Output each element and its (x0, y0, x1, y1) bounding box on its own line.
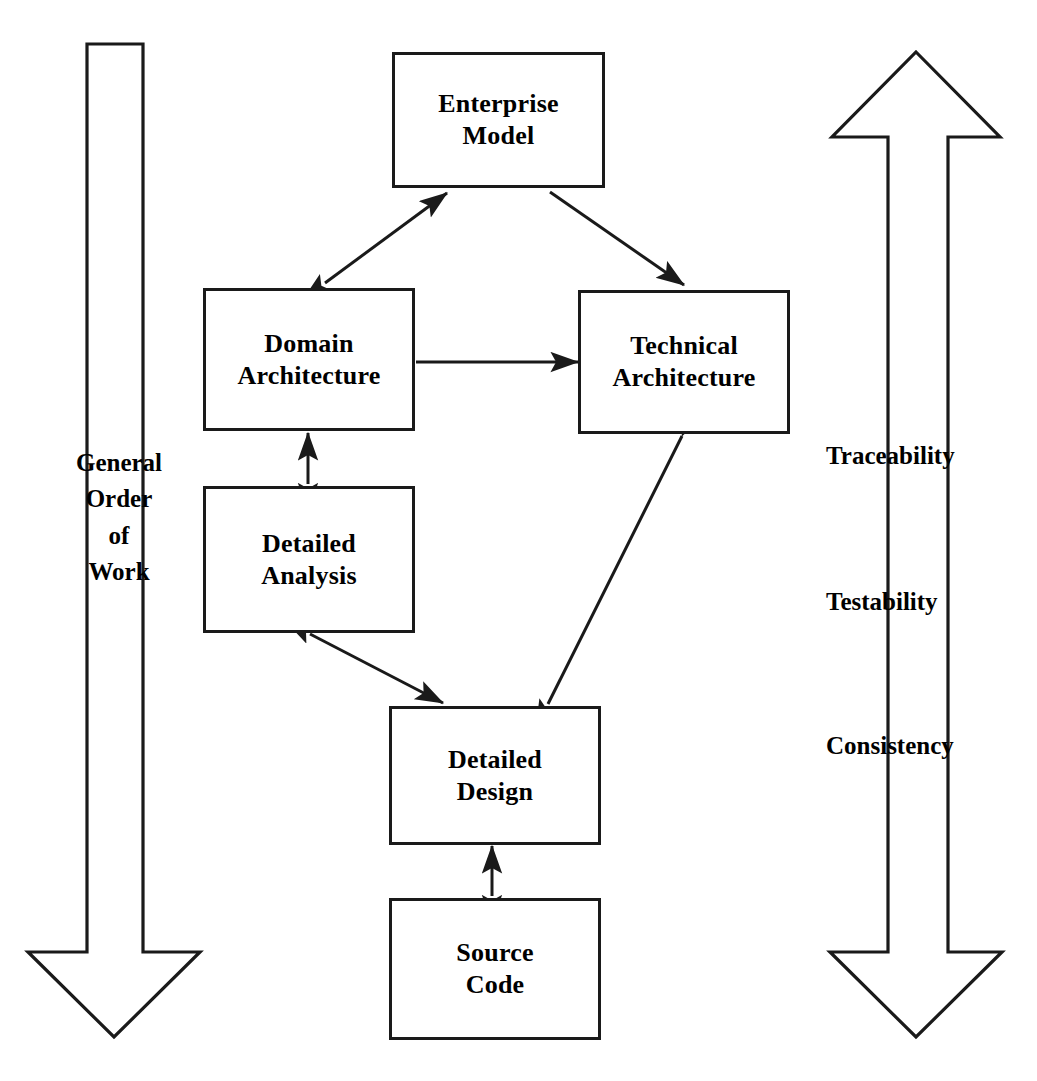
connector-enterprise-to-technical (550, 192, 684, 285)
general-order-of-work-arrow (28, 44, 200, 1037)
node-source-code[interactable]: Source Code (389, 898, 601, 1040)
node-detailed-design-label: Detailed Design (448, 744, 542, 807)
diagram-canvas: Enterprise Model Domain Architecture Tec… (0, 0, 1037, 1081)
connector-technical-to-detailed-design (548, 436, 682, 704)
node-enterprise-model[interactable]: Enterprise Model (392, 52, 605, 188)
node-detailed-analysis-label: Detailed Analysis (261, 528, 357, 591)
node-technical-architecture-label: Technical Architecture (613, 330, 756, 393)
connector-detailed-analysis-to-detailed-design (310, 634, 443, 703)
node-enterprise-model-label: Enterprise Model (438, 88, 558, 151)
node-detailed-analysis[interactable]: Detailed Analysis (203, 486, 415, 633)
node-technical-architecture[interactable]: Technical Architecture (578, 290, 790, 434)
connector-enterprise-to-domain (325, 193, 447, 283)
node-detailed-design[interactable]: Detailed Design (389, 706, 601, 845)
node-domain-architecture-label: Domain Architecture (238, 328, 381, 391)
quality-attributes-arrow (830, 52, 1002, 1037)
node-domain-architecture[interactable]: Domain Architecture (203, 288, 415, 431)
node-source-code-label: Source Code (456, 937, 533, 1000)
